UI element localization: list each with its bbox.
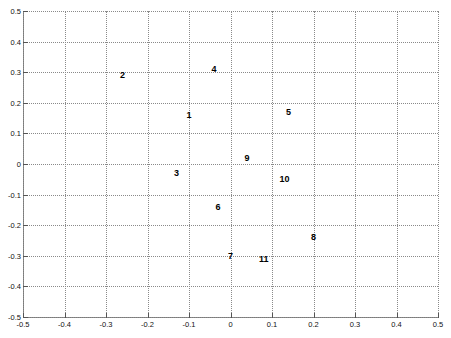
y-tick-mark (23, 256, 28, 257)
data-point-label: 2 (120, 71, 125, 80)
x-tick-mark (65, 313, 66, 318)
y-tick-mark (23, 164, 28, 165)
x-tick-label: -0.2 (141, 320, 154, 329)
y-tick-mark (23, 133, 28, 134)
data-point-label: 9 (245, 153, 250, 162)
y-tick-mark (23, 11, 28, 12)
x-tick-mark (148, 313, 149, 318)
y-tick-mark (23, 42, 28, 43)
x-tick-label: 0.3 (350, 320, 360, 329)
x-tick-label: 0.1 (267, 320, 277, 329)
data-point-label: 3 (174, 169, 179, 178)
x-tick-label: -0.1 (183, 320, 196, 329)
y-tick-label: 0.1 (11, 129, 21, 138)
y-tick-label: 0.5 (11, 7, 21, 16)
x-tick-mark (355, 313, 356, 318)
x-tick-mark (189, 313, 190, 318)
scatter-plot-figure: -0.5-0.4-0.3-0.2-0.100.10.20.30.40.50.50… (0, 0, 451, 338)
plot-area (23, 11, 438, 317)
y-tick-label: -0.4 (8, 282, 21, 291)
x-tick-mark (397, 313, 398, 318)
x-tick-mark (438, 313, 439, 318)
data-point-label: 7 (228, 251, 233, 260)
x-tick-mark (314, 313, 315, 318)
y-tick-label: 0.3 (11, 68, 21, 77)
y-tick-label: 0.2 (11, 98, 21, 107)
gridline-vertical (438, 11, 439, 317)
data-point-label: 5 (286, 107, 291, 116)
y-tick-label: 0 (17, 160, 21, 169)
y-tick-mark (23, 103, 28, 104)
y-tick-mark (23, 195, 28, 196)
data-point-label: 4 (211, 65, 216, 74)
data-point-label: 10 (279, 175, 289, 184)
data-point-label: 1 (186, 111, 191, 120)
x-tick-label: 0.4 (391, 320, 401, 329)
x-tick-mark (272, 313, 273, 318)
y-tick-label: -0.1 (8, 190, 21, 199)
y-tick-mark (23, 317, 28, 318)
y-tick-label: -0.3 (8, 251, 21, 260)
x-tick-label: 0.5 (433, 320, 443, 329)
data-point-label: 8 (311, 233, 316, 242)
y-tick-mark (23, 72, 28, 73)
y-tick-label: -0.2 (8, 221, 21, 230)
x-tick-label: 0.2 (308, 320, 318, 329)
x-tick-label: 0 (228, 320, 232, 329)
x-tick-mark (106, 313, 107, 318)
x-tick-label: -0.3 (100, 320, 113, 329)
y-tick-mark (23, 286, 28, 287)
data-point-label: 6 (216, 202, 221, 211)
x-tick-mark (231, 313, 232, 318)
x-tick-label: -0.4 (58, 320, 71, 329)
data-point-label: 11 (259, 254, 269, 263)
y-tick-label: -0.5 (8, 313, 21, 322)
y-tick-label: 0.4 (11, 37, 21, 46)
y-tick-mark (23, 225, 28, 226)
